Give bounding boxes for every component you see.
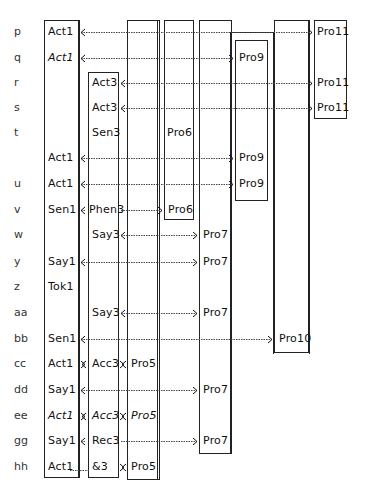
node-label: Act1: [48, 409, 74, 422]
row-label: s: [14, 101, 44, 114]
arrow-hh-b: [120, 464, 126, 471]
arrow-v-right: [121, 207, 162, 214]
node-label: Pro5: [131, 460, 156, 473]
row-label: dd: [14, 383, 44, 396]
node-label: Pro6: [168, 203, 193, 216]
node-label: Say1: [48, 434, 76, 447]
node-label: Acc3: [92, 409, 119, 422]
arrow-dd: [81, 387, 197, 394]
arrow-q: [81, 55, 233, 62]
node-label: Pro5: [131, 409, 157, 422]
row-label: y: [14, 255, 44, 268]
arrow-act1-pro9-a: [81, 155, 233, 162]
row-label: w: [14, 228, 44, 241]
node-label: Act3: [92, 76, 118, 89]
row-label: gg: [14, 434, 44, 447]
arrow-gg-right: [121, 438, 197, 445]
node-label: Sen1: [48, 332, 77, 345]
node-label: Sen1: [48, 203, 77, 216]
node-label: Pro6: [167, 126, 192, 139]
node-label: Act1: [48, 460, 74, 473]
node-label: Say1: [48, 383, 76, 396]
arrow-w: [121, 232, 197, 239]
row-label: hh: [14, 460, 44, 473]
node-label: Say1: [48, 255, 76, 268]
arrow-s: [121, 105, 312, 112]
arrow-v-left: [81, 207, 86, 214]
arrow-y: [81, 259, 197, 266]
node-label: Pro5: [131, 357, 156, 370]
row-label: ee: [14, 409, 44, 422]
row-label: aa: [14, 306, 44, 319]
row-label: v: [14, 203, 44, 216]
node-label: Pro7: [203, 228, 228, 241]
node-label: Pro9: [239, 51, 264, 64]
node-label: Pro9: [239, 151, 264, 164]
node-label: Act1: [48, 25, 74, 38]
row-label: t: [14, 126, 44, 139]
arrow-cc-a: [81, 361, 86, 368]
arrow-cc-b: [120, 361, 126, 368]
node-label: Act1: [48, 177, 74, 190]
arrow-gg-left: [81, 438, 86, 445]
node-label: Acc3: [92, 357, 119, 370]
node-label: Phen3: [89, 203, 124, 216]
node-label: Say3: [92, 306, 120, 319]
node-label: Act1: [48, 357, 74, 370]
structure-diagram: pqrstuvwyzaabbccddeegghhAct1Act1Act3Act3…: [0, 0, 368, 498]
row-label: cc: [14, 357, 44, 370]
node-label: Act3: [92, 101, 118, 114]
row-label: u: [14, 177, 44, 190]
node-label: Say3: [92, 228, 120, 241]
arrow-r: [121, 80, 312, 87]
row-label: bb: [14, 332, 44, 345]
arrow-p: [81, 29, 312, 36]
arrow-layer: [0, 0, 368, 498]
arrow-ee-b: [120, 413, 126, 420]
arrow-u: [81, 181, 233, 188]
node-label: Pro9: [239, 177, 264, 190]
node-label: Pro7: [203, 306, 228, 319]
node-label: Pro7: [203, 255, 228, 268]
node-label: Act1: [48, 51, 74, 64]
arrow-ee-a: [81, 413, 86, 420]
node-label: Tok1: [48, 280, 74, 293]
node-label: Rec3: [92, 434, 120, 447]
row-label: q: [14, 51, 44, 64]
node-label: Pro11: [317, 25, 349, 38]
arrow-bb: [81, 336, 272, 343]
node-label: Pro10: [279, 332, 311, 345]
node-label: &3: [92, 460, 108, 473]
node-label: Sen3: [92, 126, 121, 139]
row-label: r: [14, 76, 44, 89]
row-label: p: [14, 25, 44, 38]
node-label: Pro7: [203, 383, 228, 396]
node-label: Pro11: [317, 76, 349, 89]
node-label: Pro7: [203, 434, 228, 447]
arrow-aa: [121, 310, 197, 317]
node-label: Act1: [48, 151, 74, 164]
row-label: z: [14, 280, 44, 293]
node-label: Pro11: [317, 101, 349, 114]
